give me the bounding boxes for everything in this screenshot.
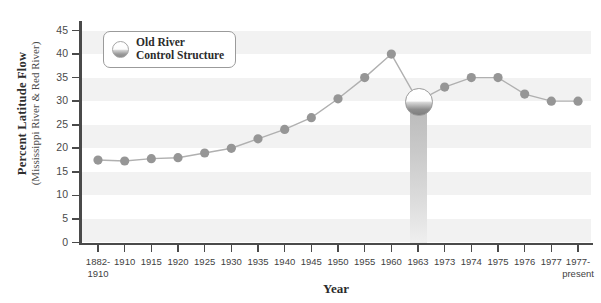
chart-figure: Percent Latitude Flow (Mississippi River…	[0, 0, 601, 303]
x-axis-title: Year	[81, 281, 591, 297]
plot-band	[81, 125, 591, 149]
plot-band	[81, 172, 591, 196]
y-axis-line	[79, 21, 82, 245]
y-axis-tick	[72, 77, 79, 79]
y-axis-tick-label: 40	[46, 48, 68, 58]
x-axis-tick	[311, 245, 313, 252]
y-axis-tick	[72, 124, 79, 126]
y-axis-tick-label: 25	[46, 119, 68, 129]
y-axis-tick	[72, 147, 79, 149]
y-axis-tick-label: 45	[46, 25, 68, 35]
x-axis-tick-label-line1: 1977-	[566, 256, 590, 267]
y-axis-tick-label: 10	[46, 189, 68, 199]
x-axis-tick	[577, 245, 579, 252]
x-axis-tick	[471, 245, 473, 252]
plot-band	[81, 219, 591, 243]
legend-label: Old River Control Structure	[136, 36, 224, 62]
y-axis-tick	[72, 100, 79, 102]
y-axis-tick-label: 35	[46, 72, 68, 82]
x-axis-tick	[364, 245, 366, 252]
x-axis-tick	[284, 245, 286, 252]
legend: Old River Control Structure	[103, 31, 236, 68]
x-axis-tick	[417, 245, 419, 252]
y-axis-tick-label: 20	[46, 142, 68, 152]
y-axis-tick-label: 0	[46, 237, 68, 247]
x-axis-tick-label-line2: 1910	[75, 268, 121, 280]
x-axis-tick	[177, 245, 179, 252]
y-axis-tick	[72, 218, 79, 220]
y-axis-tick	[72, 242, 79, 244]
y-axis-tick-label: 5	[46, 213, 68, 223]
x-axis-tick	[204, 245, 206, 252]
x-axis-tick	[151, 245, 153, 252]
x-axis-tick	[551, 245, 553, 252]
y-axis-tick-label: 30	[46, 95, 68, 105]
x-axis-tick	[231, 245, 233, 252]
y-axis-tick-label: 15	[46, 166, 68, 176]
x-axis-line	[79, 243, 593, 245]
x-axis-tick	[391, 245, 393, 252]
x-axis-tick	[524, 245, 526, 252]
sphere-marker-icon	[112, 41, 129, 58]
legend-label-line2: Control Structure	[136, 49, 224, 61]
y-axis-title-main: Percent Latitude Flow	[15, 14, 29, 214]
x-axis-tick	[444, 245, 446, 252]
legend-label-line1: Old River	[136, 36, 185, 48]
y-axis-tick	[72, 195, 79, 197]
x-axis-tick	[124, 245, 126, 252]
x-axis-tick	[97, 245, 99, 252]
y-axis-tick	[72, 171, 79, 173]
x-axis-tick	[257, 245, 259, 252]
plot-band	[81, 78, 591, 102]
x-axis-tick	[337, 245, 339, 252]
y-axis-tick	[72, 53, 79, 55]
y-axis-title-sub: (Mississippi River & Red River)	[29, 14, 42, 214]
x-axis-tick	[497, 245, 499, 252]
y-axis-tick	[72, 30, 79, 32]
x-axis-tick-label-line2: present	[555, 268, 601, 280]
x-axis-tick-label: 1977-present	[555, 256, 601, 279]
